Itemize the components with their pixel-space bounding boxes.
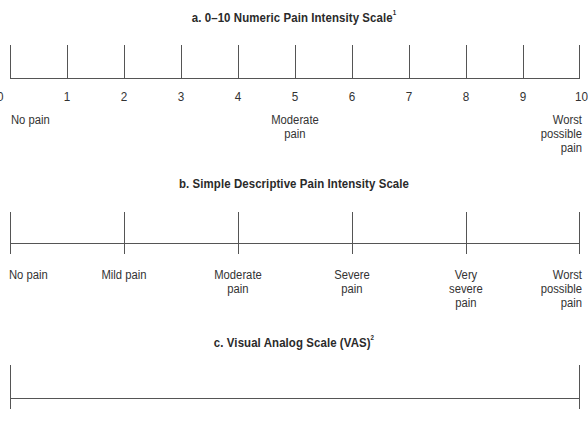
numeric-tick-0 [10, 45, 11, 79]
descriptive-scale-axis-line [10, 243, 580, 244]
descriptive-tick-1 [124, 212, 125, 254]
numeric-label-9: 9 [510, 89, 537, 104]
numeric-scale-title: a. 0–10 Numeric Pain Intensity Scale1 [35, 10, 552, 25]
label-text: pain [209, 282, 267, 296]
descriptive-label-very-severe: Very severe pain [439, 268, 493, 310]
label-text: pain [524, 296, 582, 310]
numeric-label-3: 3 [168, 89, 195, 104]
vas-title-text: c. Visual Analog Scale (VAS) [214, 335, 371, 350]
vas-axis-line [10, 398, 580, 399]
numeric-tick-7 [409, 45, 410, 79]
label-text: severe [439, 282, 493, 296]
numeric-tick-10 [579, 45, 580, 79]
numeric-label-4: 4 [225, 89, 252, 104]
numeric-tick-2 [124, 45, 125, 79]
label-text: Very [439, 268, 493, 282]
numeric-tick-8 [466, 45, 467, 79]
anchor-text: Moderate [264, 113, 327, 127]
descriptive-label-severe: Severe pain [325, 268, 379, 296]
numeric-tick-9 [523, 45, 524, 79]
descriptive-tick-3 [352, 212, 353, 254]
numeric-anchor-no-pain: No pain [11, 113, 50, 127]
vas-right-end-tick [579, 365, 580, 409]
numeric-label-0: 0 [0, 89, 15, 104]
numeric-anchor-worst: Worst possible pain [524, 113, 582, 155]
descriptive-label-worst: Worst possible pain [524, 268, 582, 310]
descriptive-tick-4 [466, 212, 467, 254]
numeric-tick-6 [352, 45, 353, 79]
descriptive-label-no-pain: No pain [9, 268, 48, 282]
footnote-marker: 1 [393, 9, 397, 16]
descriptive-scale-title: b. Simple Descriptive Pain Intensity Sca… [35, 176, 552, 191]
anchor-text: pain [264, 127, 327, 141]
numeric-tick-3 [181, 45, 182, 79]
label-text: No pain [9, 268, 48, 282]
vas-left-end-tick [10, 365, 11, 409]
numeric-label-1: 1 [54, 89, 81, 104]
numeric-label-2: 2 [111, 89, 138, 104]
numeric-scale-title-text: a. 0–10 Numeric Pain Intensity Scale [192, 10, 393, 25]
vas-title: c. Visual Analog Scale (VAS)2 [35, 335, 552, 350]
descriptive-label-moderate: Moderate pain [209, 268, 267, 296]
numeric-label-8: 8 [453, 89, 480, 104]
descriptive-label-mild: Mild pain [97, 268, 151, 282]
label-text: Mild pain [97, 268, 151, 282]
anchor-text: possible [524, 127, 582, 141]
numeric-tick-5 [295, 45, 296, 79]
label-text: Worst [524, 268, 582, 282]
descriptive-tick-0 [10, 212, 11, 254]
numeric-label-10: 10 [565, 89, 588, 104]
numeric-label-7: 7 [396, 89, 423, 104]
label-text: pain [439, 296, 493, 310]
numeric-anchor-moderate: Moderate pain [264, 113, 327, 141]
anchor-text: pain [524, 141, 582, 155]
anchor-text: No pain [11, 113, 50, 127]
numeric-tick-4 [238, 45, 239, 79]
label-text: possible [524, 282, 582, 296]
anchor-text: Worst [524, 113, 582, 127]
label-text: Severe [325, 268, 379, 282]
numeric-label-5: 5 [282, 89, 309, 104]
label-text: Moderate [209, 268, 267, 282]
label-text: pain [325, 282, 379, 296]
descriptive-tick-2 [238, 212, 239, 254]
footnote-marker: 2 [371, 334, 375, 341]
numeric-tick-1 [67, 45, 68, 79]
descriptive-tick-5 [579, 212, 580, 254]
numeric-label-6: 6 [339, 89, 366, 104]
